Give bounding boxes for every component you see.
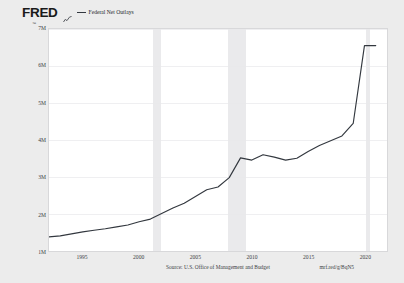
series-line-federal-net-outlays	[49, 29, 387, 251]
plot-area	[48, 28, 388, 252]
legend-label-federal-net-outlays: Federal Net Outlays	[89, 9, 134, 15]
chart-legend: Federal Net Outlays	[77, 9, 134, 15]
plot-inner	[49, 29, 387, 251]
x-tick-1995: 1995	[76, 254, 87, 260]
y-tick-6m: 6M	[24, 62, 46, 68]
chart-glyph-icon	[63, 9, 72, 27]
y-tick-5m: 5M	[24, 100, 46, 106]
fred-chart-figure: FRED ™ Federal Net Outlays 7M 6M 5M 4M 3…	[0, 0, 404, 283]
legend-swatch-federal-net-outlays	[77, 12, 86, 13]
fred-short-link: mrf.red/g/BqN5	[319, 264, 354, 270]
x-tick-2020: 2020	[360, 254, 371, 260]
y-tick-4m: 4M	[24, 137, 46, 143]
chart-header: FRED ™ Federal Net Outlays	[22, 6, 134, 24]
y-tick-1m: 1M	[24, 249, 46, 255]
fred-logo: FRED ™	[22, 6, 58, 19]
chart-footer: Source: U.S. Office of Management and Bu…	[48, 264, 388, 274]
x-tick-2005: 2005	[190, 254, 201, 260]
y-axis-ticks: 7M 6M 5M 4M 3M 2M 1M Millions of Dollars	[22, 28, 46, 252]
x-tick-2010: 2010	[246, 254, 257, 260]
y-tick-7m: 7M	[24, 25, 46, 31]
source-note: Source: U.S. Office of Management and Bu…	[166, 264, 270, 270]
x-tick-2015: 2015	[303, 254, 314, 260]
y-tick-2m: 2M	[24, 212, 46, 218]
x-tick-2000: 2000	[133, 254, 144, 260]
x-axis-ticks: 1995 2000 2005 2010 2015 2020	[48, 254, 388, 264]
fred-logo-text: FRED	[22, 5, 58, 20]
y-tick-3m: 3M	[24, 174, 46, 180]
